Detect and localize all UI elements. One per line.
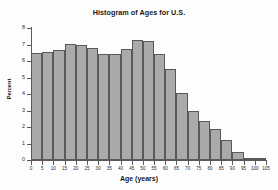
- x-axis-tick: [76, 161, 77, 165]
- x-axis-tick: [154, 161, 155, 165]
- histogram-bar: [98, 54, 109, 160]
- histogram-bar: [221, 140, 232, 160]
- histogram-bar: [176, 93, 187, 160]
- y-axis-tick-label: 6: [9, 58, 25, 63]
- x-axis-tick: [255, 161, 256, 165]
- x-axis-tick: [53, 161, 54, 165]
- histogram-bar: [121, 49, 132, 160]
- y-axis-tick-label: 3: [9, 108, 25, 113]
- histogram-bar: [165, 69, 176, 160]
- x-axis-tick: [42, 161, 43, 165]
- y-axis-title: Percent: [6, 64, 12, 114]
- y-axis-tick-label: 5: [9, 75, 25, 80]
- y-axis-tick-label: 1: [9, 141, 25, 146]
- x-axis-tick: [221, 161, 222, 165]
- histogram-bar: [31, 53, 42, 160]
- histogram-bar: [143, 41, 154, 160]
- x-axis-tick: [165, 161, 166, 165]
- x-axis-tick: [232, 161, 233, 165]
- histogram-bar: [42, 52, 53, 160]
- histogram-bar: [53, 50, 64, 160]
- x-axis-tick: [176, 161, 177, 165]
- y-axis-tick-label: 2: [9, 124, 25, 129]
- x-axis-tick: [132, 161, 133, 165]
- histogram-bar: [232, 152, 243, 160]
- histogram-bar: [210, 129, 221, 160]
- x-axis-tick: [31, 161, 32, 165]
- x-axis-title: Age (years): [0, 175, 278, 182]
- histogram-bar: [87, 48, 98, 160]
- histogram-bar: [199, 121, 210, 160]
- x-axis-tick: [244, 161, 245, 165]
- histogram-bars: [31, 28, 266, 160]
- chart-title: Histogram of Ages for U.S.: [0, 8, 278, 17]
- y-axis-tick-label: 0: [9, 157, 25, 162]
- x-axis-tick: [87, 161, 88, 165]
- x-axis-tick: [188, 161, 189, 165]
- x-axis-tick: [199, 161, 200, 165]
- histogram-figure: Histogram of Ages for U.S. Percent 01234…: [0, 0, 278, 190]
- x-axis-tick: [143, 161, 144, 165]
- histogram-bar: [154, 54, 165, 160]
- histogram-bar: [188, 111, 199, 161]
- histogram-bar: [109, 54, 120, 160]
- x-axis-tick: [65, 161, 66, 165]
- x-axis-tick: [266, 161, 267, 165]
- x-axis-tick: [121, 161, 122, 165]
- y-axis-tick-label: 4: [9, 91, 25, 96]
- histogram-bar: [255, 158, 266, 160]
- x-axis-tick: [210, 161, 211, 165]
- x-axis-tick: [98, 161, 99, 165]
- histogram-bar: [244, 158, 255, 160]
- x-axis-tick: [109, 161, 110, 165]
- histogram-bar: [65, 44, 76, 160]
- y-axis-tick-label: 7: [9, 42, 25, 47]
- histogram-bar: [76, 45, 87, 160]
- histogram-bar: [132, 40, 143, 160]
- x-axis-tick-label: 105: [259, 166, 273, 171]
- y-axis-tick-label: 8: [9, 25, 25, 30]
- plot-area: [31, 28, 266, 160]
